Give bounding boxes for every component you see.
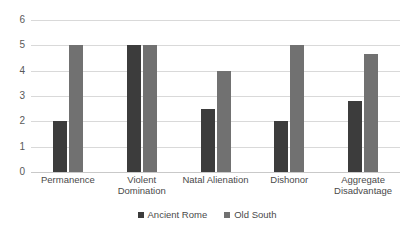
y-tick-label-1: 1 (1, 142, 25, 152)
bar (348, 101, 362, 172)
bars-layer (31, 20, 400, 172)
gridline-0 (31, 172, 400, 173)
x-tick-label: Natal Alienation (179, 174, 253, 185)
bar-group (53, 20, 83, 172)
bar (290, 45, 304, 172)
legend-swatch-icon (224, 212, 230, 218)
grouped-bar-chart: 0123456 PermanenceViolent DominationNata… (0, 0, 414, 231)
chart-legend: Ancient RomeOld South (0, 209, 414, 220)
legend-label: Ancient Rome (148, 209, 208, 220)
y-tick-label-5: 5 (1, 40, 25, 50)
x-tick-label: Dishonor (252, 174, 326, 185)
bar (53, 121, 67, 172)
x-axis: PermanenceViolent DominationNatal Aliena… (31, 174, 400, 202)
legend-swatch-icon (138, 212, 144, 218)
bar-group (348, 20, 378, 172)
bar (274, 121, 288, 172)
y-tick-label-2: 2 (1, 116, 25, 126)
y-tick-label-0: 0 (1, 167, 25, 177)
bar (127, 45, 141, 172)
bar (201, 109, 215, 172)
bar (364, 54, 378, 172)
bar-group (201, 20, 231, 172)
x-tick-label: Permanence (31, 174, 105, 185)
legend-label: Old South (234, 209, 276, 220)
y-axis: 0123456 (0, 20, 25, 172)
bar (143, 45, 157, 172)
bar (217, 71, 231, 172)
y-tick-label-3: 3 (1, 91, 25, 101)
bar (69, 45, 83, 172)
bar-group (274, 20, 304, 172)
y-tick-label-4: 4 (1, 66, 25, 76)
bar-group (127, 20, 157, 172)
legend-item[interactable]: Ancient Rome (138, 209, 208, 220)
legend-item[interactable]: Old South (224, 209, 276, 220)
x-tick-label: Violent Domination (105, 174, 179, 196)
y-tick-label-6: 6 (1, 15, 25, 25)
x-tick-label: Aggregate Disadvantage (326, 174, 400, 196)
